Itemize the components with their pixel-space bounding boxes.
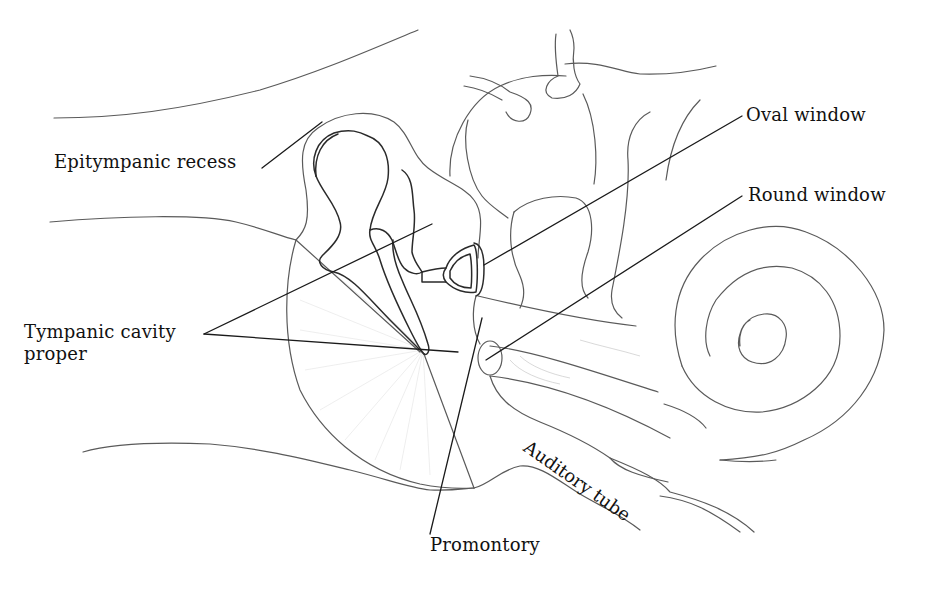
label-round-window: Round window: [748, 184, 886, 206]
label-tympanic-cavity-proper-line2: proper: [24, 343, 87, 365]
leader-round-window: [486, 196, 742, 360]
leader-tympanic-cavity-upper: [204, 224, 432, 334]
middle-ear-diagram: [0, 0, 936, 590]
epitympanic-wall: [296, 113, 481, 258]
tympanic-membrane: [287, 240, 474, 488]
outer-contours: [50, 30, 716, 490]
incus: [370, 170, 422, 274]
label-promontory: Promontory: [430, 534, 540, 556]
leader-oval-window: [484, 116, 742, 265]
label-tympanic-cavity-proper-line1: Tympanic cavity: [24, 321, 176, 343]
leader-tympanic-cavity-lower: [204, 334, 458, 352]
cochlea: [660, 227, 884, 532]
stapes: [422, 243, 484, 296]
vestibule: [450, 30, 700, 318]
medial-wall: [473, 296, 670, 482]
tube-hatching: [510, 340, 640, 384]
label-oval-window: Oval window: [746, 104, 866, 126]
label-epitympanic-recess: Epitympanic recess: [54, 151, 236, 173]
malleus: [314, 131, 429, 355]
